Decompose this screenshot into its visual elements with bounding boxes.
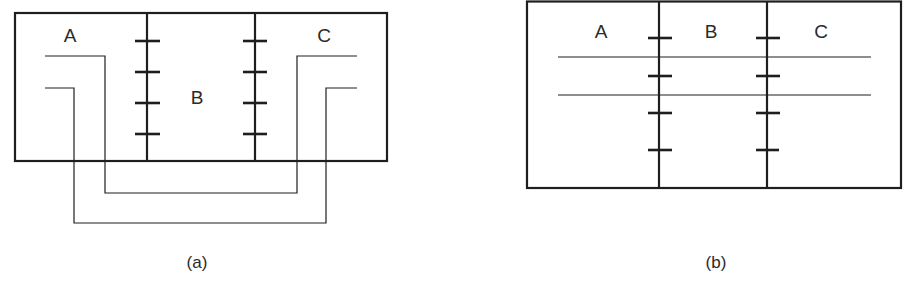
panel-b-label-a: A [595, 21, 608, 42]
panel-b-caption: (b) [706, 253, 727, 272]
figure-canvas: A B C (a) A B C (b) [0, 0, 904, 289]
panel-a-wire-inner [45, 56, 357, 193]
panel-b: A B C (b) [527, 2, 901, 273]
panel-a-caption: (a) [187, 253, 208, 272]
panel-a-label-a: A [64, 25, 77, 46]
panel-a-label-b: B [191, 87, 204, 108]
panel-b-label-b: B [705, 21, 718, 42]
panel-b-label-c: C [814, 21, 828, 42]
panel-a-label-c: C [317, 25, 331, 46]
panel-a-wire-outer [45, 88, 357, 223]
panel-a: A B C (a) [15, 13, 387, 272]
